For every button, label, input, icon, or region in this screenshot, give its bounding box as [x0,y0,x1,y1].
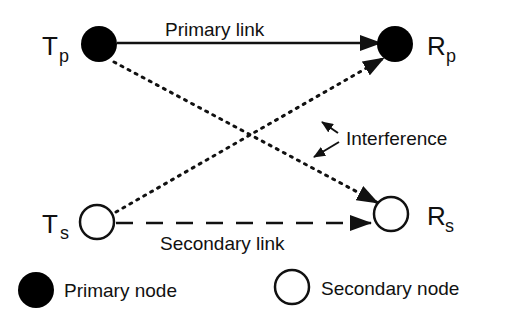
node-rp: R p [377,26,456,66]
secondary-node-icon [80,205,114,239]
node-ts-label: T [42,209,58,239]
primary-link-label: Primary link [165,19,265,40]
node-tp-label: T [42,31,58,61]
legend-item-primary: Primary node [18,272,177,308]
node-tp: T p [42,26,117,66]
interference-label: Interference [346,128,447,149]
primary-node-icon [377,26,413,62]
node-tp-sub: p [59,46,69,66]
interference-callout: Interference [314,122,447,157]
node-ts: T s [42,205,114,243]
secondary-link: Secondary link [116,223,371,254]
node-rs-label: R [427,201,446,231]
node-rs-sub: s [445,216,454,236]
legend: Primary node Secondary node [18,270,459,308]
network-diagram: Primary link Secondary link Interference… [0,0,513,330]
node-ts-sub: s [60,223,69,243]
legend-label-primary: Primary node [64,280,177,301]
secondary-node-icon [275,270,309,304]
legend-label-secondary: Secondary node [321,278,459,299]
primary-link: Primary link [117,19,381,43]
node-rp-sub: p [446,46,456,66]
secondary-node-icon [374,197,408,231]
secondary-link-label: Secondary link [160,233,285,254]
node-rs: R s [374,197,454,236]
interference-link-ts-rp [116,58,384,212]
node-rp-label: R [427,31,446,61]
legend-item-secondary: Secondary node [275,270,459,304]
primary-node-icon [18,272,54,308]
primary-node-icon [81,26,117,62]
